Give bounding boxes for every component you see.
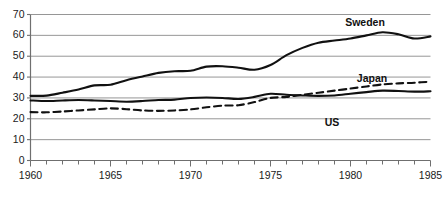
axes-group [31, 15, 431, 161]
x-tick-label-1965: 1965 [91, 169, 131, 181]
series-label-japan: Japan [357, 72, 387, 84]
x-tick-label-1960: 1960 [11, 169, 51, 181]
series-line-sweden [31, 32, 431, 96]
x-tick-label-1975: 1975 [251, 169, 291, 181]
y-tick-label-10: 10 [0, 133, 25, 145]
y-tick-label-20: 20 [0, 112, 25, 124]
y-tick-label-50: 50 [0, 49, 25, 61]
x-tick-label-1980: 1980 [331, 169, 371, 181]
y-tick-label-60: 60 [0, 28, 25, 40]
y-tick-label-40: 40 [0, 70, 25, 82]
x-tick-label-1985: 1985 [411, 169, 447, 181]
x-axis-ticks [31, 161, 431, 167]
y-tick-label-0: 0 [0, 154, 25, 166]
series-line-us [31, 91, 431, 102]
series-label-sweden: Sweden [345, 16, 385, 28]
series-label-us: US [325, 116, 340, 128]
x-tick-label-1970: 1970 [171, 169, 211, 181]
y-tick-label-70: 70 [0, 8, 25, 20]
y-tick-label-30: 30 [0, 91, 25, 103]
